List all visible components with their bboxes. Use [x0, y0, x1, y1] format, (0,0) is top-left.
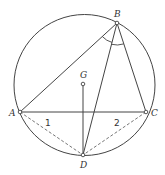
region-label-2: 2 [114, 118, 120, 128]
label-G: G [80, 70, 87, 80]
point-C [144, 110, 148, 114]
angle-arc-ABD [102, 37, 112, 43]
label-C: C [151, 108, 158, 118]
label-D: D [79, 160, 87, 170]
segment-BC [117, 23, 146, 112]
segment-AB [20, 23, 117, 112]
angle-arc-DBC [111, 44, 123, 45]
point-B [115, 21, 119, 25]
geometry-diagram: A B C D G 1 2 [0, 0, 165, 175]
point-A [18, 110, 22, 114]
label-B: B [113, 9, 121, 19]
point-D [81, 153, 85, 157]
label-A: A [8, 108, 16, 118]
segment-AD-dashed [20, 112, 83, 155]
region-label-1: 1 [45, 118, 51, 128]
point-G [81, 82, 85, 86]
